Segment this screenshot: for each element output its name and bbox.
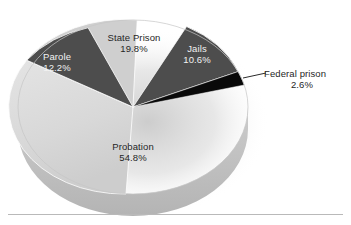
footer-divider bbox=[8, 214, 343, 215]
pie-chart-figure: State Prison 19.8% Parole 12.2% Jails 10… bbox=[0, 0, 351, 225]
pie-chart-stage: State Prison 19.8% Parole 12.2% Jails 10… bbox=[0, 0, 351, 225]
pie-chart-graphic bbox=[0, 0, 351, 225]
